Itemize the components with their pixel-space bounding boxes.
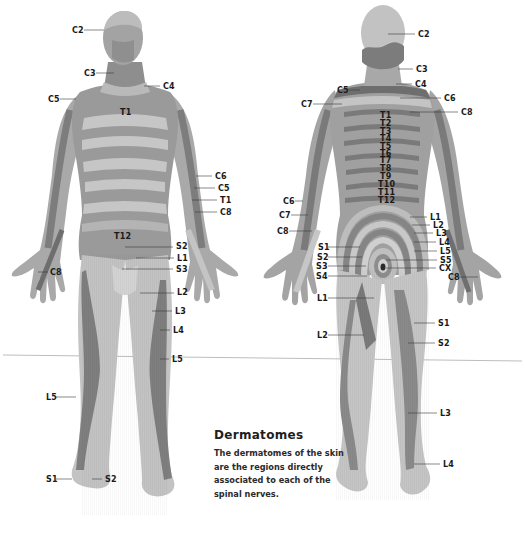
dermatome-label-front-c5: C5 — [48, 95, 60, 104]
dermatome-label-back-c3: C3 — [416, 65, 428, 74]
dermatome-label-front-s1: S1 — [46, 475, 58, 484]
dermatome-label-front-l4: L4 — [173, 326, 184, 335]
dermatome-label-front-c4: C4 — [163, 82, 175, 91]
dermatome-label-back-c7-arm: C7 — [279, 211, 291, 220]
dermatome-label-front-c8-arm: C8 — [220, 208, 232, 217]
dermatome-label-front-l3: L3 — [175, 307, 186, 316]
caption-description: The dermatomes of the skin are the regio… — [214, 447, 344, 501]
dermatome-label-back-l4-calf: L4 — [443, 460, 454, 469]
dermatome-label-back-s2: S2 — [317, 253, 329, 262]
dermatome-label-back-s1-thigh: S1 — [438, 319, 450, 328]
dermatome-label-front-c6-arm: C6 — [215, 172, 227, 181]
dermatome-label-back-t12: T12 — [378, 196, 395, 205]
dermatome-label-front-s2-foot: S2 — [105, 475, 117, 484]
dermatome-label-front-l2: L2 — [177, 288, 188, 297]
dermatome-label-back-c8-hand: C8 — [448, 273, 460, 282]
dermatome-label-back-c6: C6 — [444, 94, 456, 103]
dermatome-label-back-c7: C7 — [301, 100, 313, 109]
dermatome-label-front-l5-shin: L5 — [46, 393, 57, 402]
dermatome-label-back-l3-calf: L3 — [440, 409, 451, 418]
dermatome-label-front-c8-hand: C8 — [50, 268, 62, 277]
front-figure — [12, 11, 239, 515]
dermatome-diagram: C2 C3 C4 C5 T1 C6 C5 T1 C8 T12 S2 L1 C8 … — [0, 0, 525, 550]
dermatome-label-front-l1: L1 — [177, 254, 188, 263]
dermatome-label-front-l5-knee: L5 — [172, 355, 183, 364]
dermatome-label-back-s3: S3 — [316, 262, 328, 271]
dermatome-label-back-l5: L5 — [440, 247, 451, 256]
dermatome-label-back-c5: C5 — [337, 86, 349, 95]
dermatome-label-back-c8: C8 — [461, 108, 473, 117]
dermatome-label-back-c4: C4 — [415, 80, 427, 89]
dermatome-label-front-s2: S2 — [176, 242, 188, 251]
dermatome-label-back-cx: CX — [439, 264, 451, 273]
dermatome-label-front-c5-arm: C5 — [218, 184, 230, 193]
dermatome-label-back-l2-thigh: L2 — [317, 331, 328, 340]
dermatome-label-back-c6-arm: C6 — [283, 197, 295, 206]
dermatome-label-back-l1-thigh: L1 — [317, 294, 328, 303]
caption-box: Dermatomes The dermatomes of the skin ar… — [214, 428, 344, 501]
dermatome-label-front-s3: S3 — [176, 265, 188, 274]
back-figure — [264, 5, 502, 500]
dermatome-label-back-c2: C2 — [418, 30, 430, 39]
dermatome-label-back-l3: L3 — [436, 229, 447, 238]
dermatome-label-back-s4: S4 — [316, 272, 328, 281]
dermatome-label-front-c2: C2 — [72, 26, 84, 35]
caption-title: Dermatomes — [214, 428, 344, 442]
dermatome-label-back-s2-thigh: S2 — [438, 339, 450, 348]
dermatome-label-front-c3: C3 — [84, 69, 96, 78]
dermatome-label-back-s1: S1 — [318, 243, 330, 252]
dermatome-label-back-c8-arm: C8 — [277, 227, 289, 236]
dermatome-label-front-t12: T12 — [114, 232, 131, 241]
dermatome-label-front-t1-arm: T1 — [220, 196, 231, 205]
dermatome-label-front-t1: T1 — [120, 108, 131, 117]
dermatome-label-back-l4: L4 — [439, 238, 450, 247]
